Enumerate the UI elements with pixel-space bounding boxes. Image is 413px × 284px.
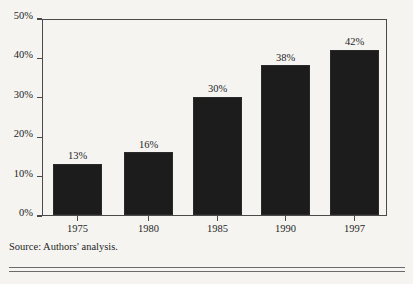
y-axis-tick-label: 40% xyxy=(14,50,33,60)
y-axis-tick-label: 10% xyxy=(14,169,33,179)
y-axis-tick-label: 30% xyxy=(14,90,33,100)
x-axis-tick-mark xyxy=(77,216,78,221)
y-axis-tick-label: 0% xyxy=(19,208,33,218)
figure-container: 0% 10% 20% 30% 40% 50% 1 xyxy=(0,0,413,284)
bar-1985[interactable] xyxy=(193,97,242,215)
bar-value-1990: 38% xyxy=(261,52,310,63)
x-axis-label-1980: 1980 xyxy=(124,223,173,235)
x-axis-tick-mark xyxy=(217,216,218,221)
bar-1990[interactable] xyxy=(261,65,310,215)
x-axis-tick-mark xyxy=(285,216,286,221)
bar-value-1980: 16% xyxy=(124,139,173,150)
x-axis-label-1985: 1985 xyxy=(193,223,242,235)
bar-1980[interactable] xyxy=(124,152,173,215)
bar-1997[interactable] xyxy=(330,50,379,215)
source-note: Source: Authors' analysis. xyxy=(9,241,118,253)
x-axis-label-1997: 1997 xyxy=(330,223,379,235)
plot-area xyxy=(42,19,387,216)
bottom-rule-lower xyxy=(9,271,405,272)
x-axis-tick-mark xyxy=(354,216,355,221)
x-axis-label-1990: 1990 xyxy=(261,223,310,235)
bar-value-1997: 42% xyxy=(330,36,379,47)
bar-1975[interactable] xyxy=(53,164,102,215)
bar-value-1985: 30% xyxy=(193,83,242,94)
x-axis-tick-mark xyxy=(148,216,149,221)
y-axis-tick-label: 20% xyxy=(14,129,33,139)
y-axis-tick-label: 50% xyxy=(14,11,33,21)
bottom-rule-upper xyxy=(9,267,405,268)
x-axis-label-1975: 1975 xyxy=(53,223,102,235)
bar-value-1975: 13% xyxy=(53,150,102,161)
